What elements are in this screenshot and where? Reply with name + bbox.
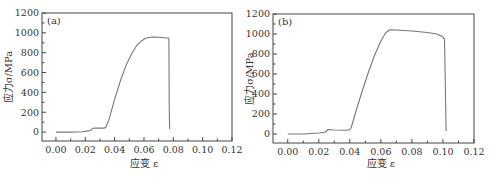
y-tick-label: 600 [21, 67, 39, 78]
y-tick-label: 0 [264, 128, 270, 139]
plot-frame [42, 13, 232, 141]
panel-label: (a) [47, 15, 61, 26]
x-tick-label: 0.10 [192, 144, 213, 155]
x-tick-label: 0.04 [104, 144, 125, 155]
y-tick-label: 400 [21, 87, 39, 98]
x-tick-label: 0.06 [370, 146, 391, 157]
y-tick-label: 1200 [246, 8, 270, 19]
series-line-b [288, 30, 446, 134]
y-tick-label: 800 [21, 47, 39, 58]
y-tick-label: 200 [252, 108, 270, 119]
chart-panel-b: 0200400600800100012000.000.020.040.060.0… [243, 8, 485, 169]
y-tick-label: 1000 [15, 27, 39, 38]
y-axis-label: 应力σ/MPa [2, 51, 14, 104]
x-tick-label: 0.02 [308, 146, 329, 157]
x-axis-label: 应变 ε [367, 157, 395, 169]
chart-panel-a: 0200400600800100012000.000.020.040.060.0… [2, 7, 243, 169]
x-tick-label: 0.08 [163, 144, 184, 155]
panel-label: (b) [278, 16, 292, 27]
y-tick-label: 200 [21, 107, 39, 118]
y-tick-label: 0 [33, 126, 39, 137]
x-tick-label: 0.06 [133, 144, 154, 155]
x-tick-label: 0.04 [339, 146, 360, 157]
plot-frame [273, 14, 474, 143]
x-tick-label: 0.10 [432, 146, 453, 157]
y-tick-label: 1000 [246, 28, 270, 39]
figure-stress-strain: 0200400600800100012000.000.020.040.060.0… [0, 0, 490, 181]
y-axis-label: 应力σ/MPa [243, 52, 255, 105]
x-tick-label: 0.12 [221, 144, 242, 155]
x-axis-label: 应变 ε [130, 157, 158, 169]
series-line-a [56, 37, 170, 132]
x-tick-label: 0.00 [45, 144, 66, 155]
y-tick-label: 1200 [15, 7, 39, 18]
x-tick-label: 0.02 [75, 144, 96, 155]
x-tick-label: 0.12 [463, 146, 484, 157]
x-tick-label: 0.08 [401, 146, 422, 157]
x-tick-label: 0.00 [277, 146, 298, 157]
